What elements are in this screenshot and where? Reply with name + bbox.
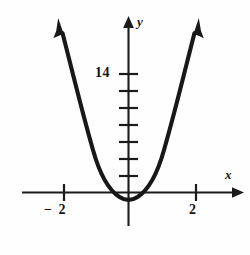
parabola-figure: 14 − 2 2 y x [0,0,250,255]
left-branch-arrowhead [53,18,65,39]
x-axis-arrowhead [232,187,244,198]
plot-canvas [0,0,250,255]
y-tick-label-14: 14 [95,66,110,80]
y-axis-group [123,16,134,226]
x-tick-label-positive-2: 2 [189,203,197,217]
right-branch-arrowhead [192,18,204,39]
y-axis-label: y [137,15,143,28]
x-axis-label: x [225,168,232,181]
x-tick-label-negative-2: − 2 [44,203,67,217]
x-axis-group [22,187,244,198]
y-axis-arrowhead [123,16,134,28]
